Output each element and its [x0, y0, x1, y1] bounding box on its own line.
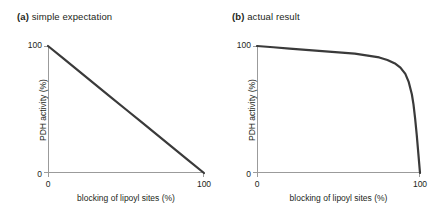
- panel-actual-result: (b) actual result 100 0 0 100 PDH activi…: [215, 0, 429, 220]
- x-tick-label-100-b: 100: [413, 179, 427, 189]
- curve-a: [48, 46, 204, 173]
- y-axis-label-a: PDH activity (%): [38, 79, 48, 141]
- plot-area-b: 100 0 0 100 PDH activity (%) blocking of…: [257, 46, 420, 173]
- panel-a-tag: (a): [17, 11, 29, 22]
- panel-b-title-text: actual result: [247, 11, 300, 22]
- panel-a-title: (a) simple expectation: [17, 11, 112, 22]
- panel-a-title-text: simple expectation: [32, 11, 112, 22]
- y-tick-label-100-b: 100: [237, 40, 251, 50]
- x-tick-label-0-a: 0: [46, 179, 51, 189]
- panel-b-tag: (b): [232, 11, 244, 22]
- panel-simple-expectation: (a) simple expectation 100 0 0 100 PDH a…: [0, 0, 214, 220]
- y-tick-label-0-b: 0: [246, 169, 251, 179]
- x-tick-0-b: [257, 173, 258, 177]
- x-tick-label-0-b: 0: [255, 179, 260, 189]
- y-tick-label-0-a: 0: [37, 169, 42, 179]
- panel-b-title: (b) actual result: [232, 11, 300, 22]
- x-tick-label-100-a: 100: [197, 179, 211, 189]
- figure: (a) simple expectation 100 0 0 100 PDH a…: [0, 0, 429, 220]
- plot-area-a: 100 0 0 100 PDH activity (%) blocking of…: [48, 46, 204, 173]
- x-tick-0-a: [48, 173, 49, 177]
- x-axis-label-b: blocking of lipoyl sites (%): [290, 193, 388, 203]
- x-axis-label-a: blocking of lipoyl sites (%): [77, 193, 175, 203]
- y-axis-label-b: PDH activity (%): [247, 79, 257, 141]
- curve-b: [257, 46, 420, 173]
- y-tick-label-100-a: 100: [28, 40, 42, 50]
